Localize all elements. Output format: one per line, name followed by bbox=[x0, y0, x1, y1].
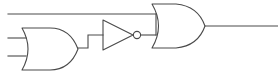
inverter-bubble-icon bbox=[133, 31, 140, 38]
logic-circuit-diagram bbox=[0, 0, 278, 77]
not-gate-icon bbox=[103, 20, 133, 50]
circuit-svg-canvas bbox=[0, 0, 278, 77]
or-gate-icon-2 bbox=[152, 4, 205, 48]
or1-to-inverter-wire bbox=[78, 35, 103, 48]
or-gate-icon bbox=[22, 28, 78, 70]
